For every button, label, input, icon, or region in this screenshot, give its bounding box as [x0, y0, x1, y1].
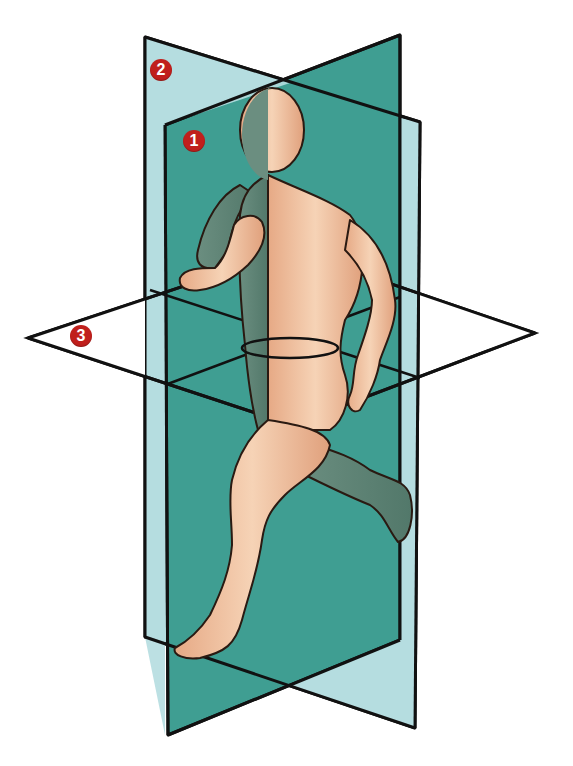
plane-1-marker: 1 — [183, 130, 205, 152]
plane-2-marker: 2 — [150, 59, 172, 81]
anatomical-planes-figure: 2 1 3 — [0, 0, 573, 766]
plane-1-label: 1 — [190, 132, 199, 149]
plane-2-label: 2 — [157, 61, 166, 78]
figure-canvas — [0, 0, 573, 766]
plane-3-label: 3 — [77, 327, 86, 344]
plane-3-marker: 3 — [70, 325, 92, 347]
